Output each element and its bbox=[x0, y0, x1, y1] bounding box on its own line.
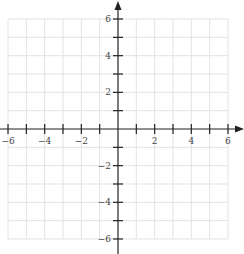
y-tick-label: −6 bbox=[98, 234, 112, 244]
x-tick-label: −4 bbox=[38, 136, 52, 146]
x-tick-label: 4 bbox=[188, 136, 194, 146]
x-tick-label: −2 bbox=[75, 136, 88, 146]
x-axis-arrow-icon bbox=[235, 126, 244, 133]
y-tick-label: 2 bbox=[105, 87, 111, 97]
x-tick-label: 2 bbox=[152, 136, 158, 146]
coordinate-grid: −6−4−2246642−2−4−6 bbox=[0, 0, 244, 254]
x-tick-label: 6 bbox=[225, 136, 231, 146]
y-axis-arrow-icon bbox=[115, 1, 122, 10]
y-tick-label: 6 bbox=[105, 14, 111, 24]
y-tick-label: −2 bbox=[98, 161, 111, 171]
y-tick-label: 4 bbox=[105, 51, 111, 61]
y-tick-label: −4 bbox=[98, 197, 112, 207]
x-tick-label: −6 bbox=[1, 136, 15, 146]
axes bbox=[0, 1, 244, 254]
